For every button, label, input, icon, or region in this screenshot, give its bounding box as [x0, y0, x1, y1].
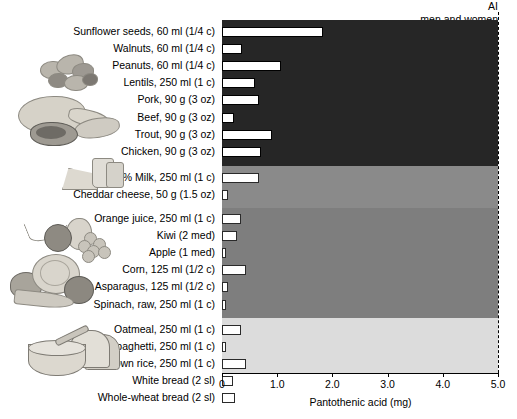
- bar-apple-1-med: [222, 248, 226, 258]
- pantothenic-acid-bar-chart: AI men and women 01.02.03.04.05.0 Pantot…: [0, 0, 517, 419]
- label-cheddar-cheese-50-g-1-5-oz: Cheddar cheese, 50 g (1.5 oz): [73, 189, 215, 200]
- bar-spaghetti-250-ml-1-c: [222, 342, 226, 352]
- label-spinach-raw-250-ml-1-c: Spinach, raw, 250 ml (1 c): [94, 299, 215, 310]
- label-corn-125-ml-1-2-c: Corn, 125 ml (1/2 c): [122, 264, 215, 275]
- x-tick-2.0: [332, 373, 333, 377]
- x-tick-label-4.0: 4.0: [435, 378, 450, 390]
- ai-abbreviation: AI: [420, 0, 498, 13]
- bar-sunflower-seeds-60-ml-1-4-c: [222, 27, 323, 37]
- label-trout-90-g-3-oz: Trout, 90 g (3 oz): [135, 129, 215, 140]
- x-tick-3.0: [388, 373, 389, 377]
- x-tick-4.0: [443, 373, 444, 377]
- x-axis-line: [222, 373, 499, 374]
- x-tick-label-0: 0: [219, 378, 225, 390]
- x-tick-label-2.0: 2.0: [325, 378, 340, 390]
- label-2-milk-250-ml-1-c: 2% Milk, 250 ml (1 c): [117, 172, 215, 183]
- x-tick-label-1.0: 1.0: [270, 378, 285, 390]
- ai-reference-dashed-line: [498, 12, 499, 373]
- label-orange-juice-250-ml-1-c: Orange juice, 250 ml (1 c): [94, 213, 215, 224]
- bar-peanuts-60-ml-1-4-c: [222, 61, 281, 71]
- band-fruits-vegetables: [222, 208, 498, 318]
- label-beef-90-g-3-oz: Beef, 90 g (3 oz): [137, 112, 215, 123]
- bar-kiwi-2-med: [222, 231, 237, 241]
- bar-cheddar-cheese-50-g-1-5-oz: [222, 190, 228, 200]
- x-tick-1.0: [277, 373, 278, 377]
- label-oatmeal-250-ml-1-c: Oatmeal, 250 ml (1 c): [114, 324, 215, 335]
- bar-lentils-250-ml-1-c: [222, 78, 255, 88]
- label-white-bread-2-sl: White bread (2 sl): [132, 375, 215, 386]
- bar-pork-90-g-3-oz: [222, 95, 259, 105]
- bar-walnuts-60-ml-1-4-c: [222, 44, 242, 54]
- band-protein-foods: [222, 20, 498, 166]
- label-walnuts-60-ml-1-4-c: Walnuts, 60 ml (1/4 c): [113, 43, 215, 54]
- bar-2-milk-250-ml-1-c: [222, 173, 259, 183]
- band-dairy-foods: [222, 166, 498, 208]
- bar-chicken-90-g-3-oz: [222, 147, 261, 157]
- x-axis-title: Pantothenic acid (mg): [222, 396, 499, 408]
- bar-corn-125-ml-1-2-c: [222, 265, 246, 275]
- bar-asparagus-125-ml-1-2-c: [222, 282, 228, 292]
- label-sunflower-seeds-60-ml-1-4-c: Sunflower seeds, 60 ml (1/4 c): [73, 26, 215, 37]
- label-pork-90-g-3-oz: Pork, 90 g (3 oz): [137, 94, 215, 105]
- label-apple-1-med: Apple (1 med): [149, 247, 215, 258]
- label-lentils-250-ml-1-c: Lentils, 250 ml (1 c): [123, 77, 215, 88]
- bar-brown-rice-250-ml-1-c: [222, 359, 246, 369]
- bar-beef-90-g-3-oz: [222, 113, 234, 123]
- label-brown-rice-250-ml-1-c: Brown rice, 250 ml (1 c): [104, 358, 215, 369]
- x-tick-0: [222, 373, 223, 377]
- label-kiwi-2-med: Kiwi (2 med): [157, 230, 215, 241]
- bar-trout-90-g-3-oz: [222, 130, 272, 140]
- label-asparagus-125-ml-1-2-c: Asparagus, 125 ml (1/2 c): [95, 281, 215, 292]
- band-grain-foods: [222, 318, 498, 373]
- label-peanuts-60-ml-1-4-c: Peanuts, 60 ml (1/4 c): [112, 60, 215, 71]
- bar-spinach-raw-250-ml-1-c: [222, 300, 226, 310]
- label-chicken-90-g-3-oz: Chicken, 90 g (3 oz): [121, 146, 215, 157]
- category-labels: Sunflower seeds, 60 ml (1/4 c)Walnuts, 6…: [0, 20, 219, 373]
- plot-area: [222, 20, 498, 373]
- x-tick-label-3.0: 3.0: [380, 378, 395, 390]
- x-tick-label-5.0: 5.0: [491, 378, 506, 390]
- bar-oatmeal-250-ml-1-c: [222, 325, 241, 335]
- label-spaghetti-250-ml-1-c: Spaghetti, 250 ml (1 c): [109, 341, 215, 352]
- bar-orange-juice-250-ml-1-c: [222, 214, 241, 224]
- x-tick-5.0: [498, 373, 499, 377]
- label-whole-wheat-bread-2-sl: Whole-wheat bread (2 sl): [98, 392, 215, 403]
